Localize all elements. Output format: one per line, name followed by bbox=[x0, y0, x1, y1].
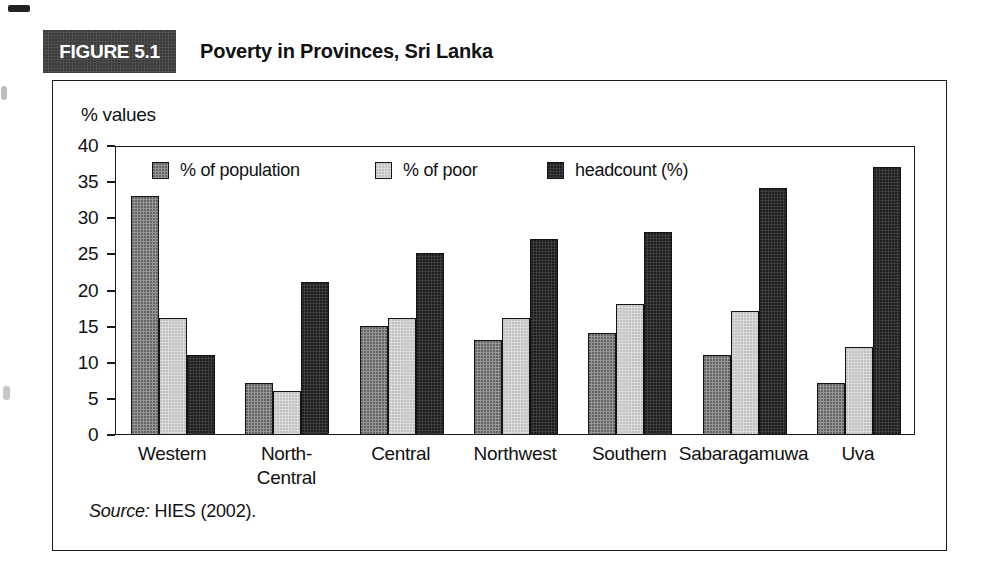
y-tick-mark bbox=[107, 398, 115, 400]
legend-label: headcount (%) bbox=[575, 160, 688, 181]
figure-box: % values 0510152025303540 % of populatio… bbox=[52, 80, 947, 551]
figure-title: Poverty in Provinces, Sri Lanka bbox=[200, 40, 493, 63]
bar bbox=[873, 167, 901, 434]
bar bbox=[388, 318, 416, 434]
y-tick-label: 40 bbox=[56, 135, 98, 157]
y-tick-label: 30 bbox=[56, 207, 98, 229]
y-tick-mark bbox=[107, 290, 115, 292]
y-tick-label: 35 bbox=[56, 171, 98, 193]
y-tick-mark bbox=[107, 217, 115, 219]
source-text: HIES (2002). bbox=[150, 501, 256, 521]
y-tick-mark bbox=[107, 253, 115, 255]
y-tick-label: 15 bbox=[56, 316, 98, 338]
bar bbox=[817, 383, 845, 434]
legend-item: headcount (%) bbox=[547, 160, 688, 181]
bar bbox=[845, 347, 873, 434]
bar bbox=[301, 282, 329, 434]
y-tick-label: 25 bbox=[56, 243, 98, 265]
x-axis-label: Uva bbox=[778, 442, 938, 466]
bar bbox=[616, 304, 644, 434]
bar bbox=[416, 253, 444, 434]
bar bbox=[502, 318, 530, 434]
legend-swatch bbox=[547, 162, 564, 179]
bar bbox=[360, 326, 388, 434]
bar bbox=[703, 355, 731, 434]
bar bbox=[474, 340, 502, 434]
page: FIGURE 5.1 Poverty in Provinces, Sri Lan… bbox=[0, 0, 994, 580]
figure-header: FIGURE 5.1 Poverty in Provinces, Sri Lan… bbox=[43, 30, 493, 73]
scan-artifact bbox=[1, 86, 7, 100]
y-tick-label: 20 bbox=[56, 280, 98, 302]
legend-swatch bbox=[375, 162, 392, 179]
y-tick-label: 10 bbox=[56, 352, 98, 374]
bar bbox=[187, 355, 215, 434]
bar bbox=[245, 383, 273, 434]
bar bbox=[131, 196, 159, 434]
y-tick-mark bbox=[107, 434, 115, 436]
scan-artifact bbox=[3, 386, 10, 400]
y-tick-mark bbox=[107, 362, 115, 364]
bar bbox=[159, 318, 187, 434]
source-prefix: Source: bbox=[89, 501, 150, 521]
plot-area: % of population% of poorheadcount (%) bbox=[115, 146, 915, 435]
y-tick-label: 5 bbox=[56, 388, 98, 410]
bar bbox=[644, 232, 672, 434]
y-tick-mark bbox=[107, 326, 115, 328]
x-axis-labels: WesternNorth- CentralCentralNorthwestSou… bbox=[53, 442, 946, 494]
legend-label: % of poor bbox=[403, 160, 477, 181]
bar bbox=[731, 311, 759, 434]
figure-label: FIGURE 5.1 bbox=[59, 41, 159, 63]
scan-artifact bbox=[8, 5, 30, 12]
figure-label-tab: FIGURE 5.1 bbox=[43, 30, 176, 73]
legend-item: % of population bbox=[152, 160, 300, 181]
legend-label: % of population bbox=[180, 160, 300, 181]
bar bbox=[273, 391, 301, 434]
y-axis: 0510152025303540 bbox=[53, 146, 115, 435]
legend: % of population% of poorheadcount (%) bbox=[116, 147, 914, 197]
y-tick-mark bbox=[107, 181, 115, 183]
legend-swatch bbox=[152, 162, 169, 179]
bar bbox=[530, 239, 558, 434]
source-line: Source: HIES (2002). bbox=[89, 501, 256, 522]
bar bbox=[588, 333, 616, 434]
legend-item: % of poor bbox=[375, 160, 477, 181]
y-axis-title: % values bbox=[81, 104, 156, 126]
y-tick-mark bbox=[107, 145, 115, 147]
bar bbox=[759, 188, 787, 434]
